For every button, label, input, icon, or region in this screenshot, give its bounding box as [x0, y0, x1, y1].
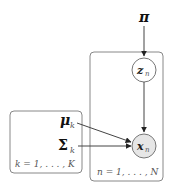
pi-node-label: π: [138, 9, 150, 25]
mu-node-label: μ: [60, 112, 70, 128]
data-plate-label: n = 1, . . . , N: [97, 167, 159, 177]
edge-mu-to-x: [77, 123, 131, 142]
gmm-plate-diagram: n = 1, . . . , N k = 1, . . . , K π z n …: [0, 0, 171, 191]
x-node-label: x: [136, 140, 144, 153]
sigma-node-subscript: k: [70, 146, 75, 155]
z-node-subscript: n: [145, 70, 150, 78]
latent-node-z: [132, 58, 156, 82]
z-node-label: z: [136, 64, 144, 77]
mu-node-subscript: k: [70, 121, 75, 130]
x-node-subscript: n: [145, 146, 150, 154]
observed-node-x: [132, 134, 156, 158]
sigma-node-label: Σ: [58, 137, 68, 153]
component-plate-label: k = 1, . . . , K: [15, 159, 76, 169]
